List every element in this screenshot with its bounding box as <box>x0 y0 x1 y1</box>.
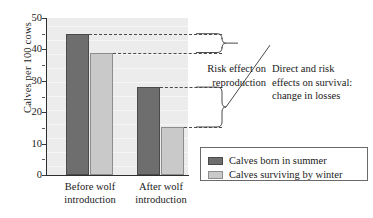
brace-lower-icon <box>196 87 226 127</box>
legend-item-born-summer: Calves born in summer <box>208 154 327 167</box>
tickmark-30 <box>42 81 46 82</box>
annotation-survival-line2: effects on survival: <box>272 76 372 90</box>
legend-label-surviving-winter: Calves surviving by winter <box>229 169 342 180</box>
tickmark-minor-5 <box>42 159 45 160</box>
bar-calves-born-after <box>137 87 160 175</box>
legend-swatch-surviving-winter <box>208 171 223 179</box>
x-axis-line <box>46 175 189 176</box>
x-tick-label-after: After wolf introduction <box>116 180 206 206</box>
annotation-risk-line2: reproduction <box>188 76 266 90</box>
bar-calves-surviving-before <box>90 53 113 175</box>
y-tick-50: 50 <box>20 13 42 24</box>
legend-label-born-summer: Calves born in summer <box>229 155 327 166</box>
tickmark-20 <box>42 112 46 113</box>
tickmark-10 <box>42 144 46 145</box>
y-tick-40: 40 <box>20 44 42 55</box>
y-tick-0: 0 <box>20 170 42 181</box>
y-axis-line <box>46 18 47 176</box>
x-tick-after-line1: After wolf <box>116 180 206 193</box>
chart-figure: Calves per 100 cows 50 40 30 20 10 0 Bef… <box>0 0 373 218</box>
x-tick-after-line2: introduction <box>116 193 206 206</box>
annotation-survival-line3: change in losses <box>272 89 372 103</box>
brace-upper-icon <box>196 34 226 53</box>
annotation-risk-reproduction: Risk effect on reproduction <box>188 62 266 89</box>
leader-line-45 <box>89 34 222 35</box>
annotation-risk-line1: Risk effect on <box>188 62 266 76</box>
legend-swatch-born-summer <box>208 157 223 165</box>
tickmark-40 <box>42 49 46 50</box>
y-tick-10: 10 <box>20 138 42 149</box>
bar-calves-surviving-after <box>161 127 184 175</box>
chart-legend: Calves born in summer Calves surviving b… <box>200 147 368 181</box>
tickmark-minor-25 <box>42 97 45 98</box>
annotation-survival-line1: Direct and risk <box>272 62 372 76</box>
bar-calves-born-before <box>66 34 89 175</box>
tickmark-0 <box>42 175 46 176</box>
leader-line-39 <box>113 53 222 54</box>
y-tick-30: 30 <box>20 76 42 87</box>
annotation-survival-losses: Direct and risk effects on survival: cha… <box>272 62 372 103</box>
leader-line-15 <box>184 127 222 128</box>
tickmark-minor-35 <box>42 65 45 66</box>
y-tick-20: 20 <box>20 107 42 118</box>
tickmark-minor-45 <box>42 34 45 35</box>
legend-item-surviving-winter: Calves surviving by winter <box>208 168 342 181</box>
tickmark-minor-15 <box>42 128 45 129</box>
tickmark-50 <box>42 18 46 19</box>
y-tick-labels: 50 40 30 20 10 0 <box>16 0 42 218</box>
